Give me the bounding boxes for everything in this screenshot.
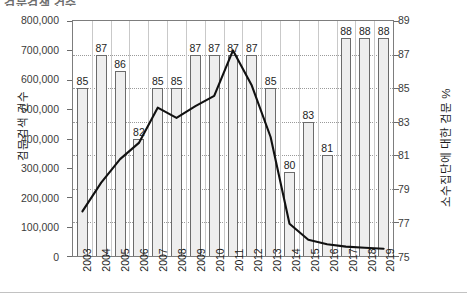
tick-mark xyxy=(67,197,72,198)
x-axis-tick: 2017 xyxy=(337,258,356,300)
x-axis-labels: 2003200420052006200720082009201020112012… xyxy=(72,258,394,300)
y-axis-left: 0100,000200,000300,000400,000500,000600,… xyxy=(0,20,68,257)
x-axis-tick: 2019 xyxy=(375,258,394,300)
x-axis-tick: 2005 xyxy=(110,258,129,300)
y-axis-left-tick: 0 xyxy=(53,251,59,263)
x-axis-tick: 2010 xyxy=(205,258,224,300)
page-divider xyxy=(0,292,467,293)
tick-mark xyxy=(67,168,72,169)
tick-mark xyxy=(394,256,399,257)
y-axis-right-tick: 75 xyxy=(398,251,410,263)
x-axis-tick: 2007 xyxy=(148,258,167,300)
x-axis-tick: 2018 xyxy=(356,258,375,300)
y-axis-left-title: 검문검색 건수 xyxy=(14,66,30,186)
y-axis-left-tick: 200,000 xyxy=(21,192,59,204)
plot-area: 8587868285858787878785808381888888 xyxy=(72,20,394,257)
x-axis-tick: 2011 xyxy=(224,258,243,300)
tick-mark xyxy=(394,155,399,156)
y-axis-left-tick: 700,000 xyxy=(21,44,59,56)
tick-mark xyxy=(394,222,399,223)
y-axis-right-tick: 87 xyxy=(398,48,410,60)
x-axis-tick: 2016 xyxy=(318,258,337,300)
y-axis-right-tick: 83 xyxy=(398,116,410,128)
y-axis-right-tick: 89 xyxy=(398,14,410,26)
tick-mark xyxy=(67,80,72,81)
line-series xyxy=(73,21,393,256)
x-axis-tick: 2008 xyxy=(167,258,186,300)
tick-mark xyxy=(67,139,72,140)
x-axis-tick: 2004 xyxy=(91,258,110,300)
y-axis-right-tick: 85 xyxy=(398,82,410,94)
y-axis-right-tick: 79 xyxy=(398,183,410,195)
tick-mark xyxy=(394,21,399,22)
x-axis-tick: 2015 xyxy=(299,258,318,300)
x-axis-tick: 2003 xyxy=(72,258,91,300)
x-axis-label: 2019 xyxy=(384,248,396,271)
tick-mark xyxy=(67,109,72,110)
chart-title: 검문검색 건수 xyxy=(4,0,204,6)
tick-mark xyxy=(394,189,399,190)
x-axis-tick: 2009 xyxy=(186,258,205,300)
x-axis-tick: 2012 xyxy=(242,258,261,300)
tick-mark xyxy=(67,227,72,228)
tick-mark xyxy=(394,88,399,89)
y-axis-left-tick: 100,000 xyxy=(21,221,59,233)
tick-mark xyxy=(67,21,72,22)
y-axis-right-tick: 81 xyxy=(398,149,410,161)
y-axis-left-tick: 800,000 xyxy=(21,14,59,26)
y-axis-right: 7577798183858789 xyxy=(398,20,424,257)
x-axis-tick: 2014 xyxy=(280,258,299,300)
tick-mark xyxy=(67,50,72,51)
y-axis-right-tick: 77 xyxy=(398,217,410,229)
chart-container: 검문검색 건수 0100,000200,000300,000400,000500… xyxy=(0,0,467,300)
tick-mark xyxy=(394,122,399,123)
x-axis-tick: 2013 xyxy=(261,258,280,300)
x-axis-tick: 2006 xyxy=(129,258,148,300)
tick-mark xyxy=(394,55,399,56)
y-axis-right-title: 소수집단에 대한 검문 % xyxy=(437,68,453,228)
tick-mark xyxy=(67,256,72,257)
